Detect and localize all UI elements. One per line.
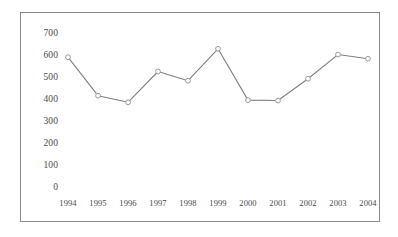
x-tick-label-1999: 1999	[203, 198, 233, 208]
x-tick-label-1997: 1997	[143, 198, 173, 208]
y-tick-label-500: 500	[30, 72, 58, 82]
x-tick-label-2003: 2003	[323, 198, 353, 208]
chart-frame	[20, 12, 380, 222]
x-tick-label-1994: 1994	[53, 198, 83, 208]
x-tick-label-1996: 1996	[113, 198, 143, 208]
x-tick-label-2000: 2000	[233, 198, 263, 208]
x-tick-label-2002: 2002	[293, 198, 323, 208]
y-tick-label-100: 100	[30, 160, 58, 170]
y-tick-label-200: 200	[30, 138, 58, 148]
y-tick-label-0: 0	[30, 182, 58, 192]
y-tick-label-700: 700	[30, 28, 58, 38]
x-tick-label-2004: 2004	[353, 198, 383, 208]
y-tick-label-400: 400	[30, 94, 58, 104]
x-tick-label-2001: 2001	[263, 198, 293, 208]
x-tick-label-1995: 1995	[83, 198, 113, 208]
y-tick-label-300: 300	[30, 116, 58, 126]
y-tick-label-600: 600	[30, 50, 58, 60]
x-tick-label-1998: 1998	[173, 198, 203, 208]
